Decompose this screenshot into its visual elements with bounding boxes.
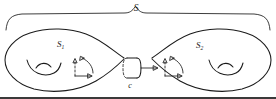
right-handle-lower-arc: [209, 60, 243, 75]
left-handle-mark: [27, 60, 61, 75]
neck-front-edge: [137, 58, 141, 78]
genus-two-outline: [5, 29, 271, 91]
label-surface-S-base: S: [134, 3, 139, 13]
label-region-S1-sub: 1: [62, 44, 65, 50]
label-region-S1: S1: [57, 39, 65, 50]
left-handle-upper-arc: [36, 63, 51, 68]
left-orientation-frame: [73, 56, 93, 78]
left-handle-lower-arc: [27, 60, 61, 75]
neck-normal-arrow: [141, 66, 158, 70]
label-curve-c-base: c: [128, 81, 132, 90]
right-orientation-frame: [163, 56, 183, 78]
neck-back-edge-dashed: [123, 58, 127, 78]
label-region-S2-sub: 2: [201, 45, 204, 51]
bottom-rule: [0, 97, 276, 99]
label-curve-c: c: [128, 81, 132, 90]
left-frame-rotation-arc: [82, 58, 93, 73]
label-surface-S: S: [134, 3, 139, 13]
label-region-S2: S2: [196, 40, 204, 51]
separating-neck: [123, 58, 141, 78]
outline-left-lobe: [5, 29, 124, 91]
right-frame-rotation-arc: [172, 58, 183, 73]
right-handle-mark: [209, 60, 243, 75]
brace-left-arm: [6, 7, 135, 30]
figure-canvas: S c: [0, 0, 276, 99]
brace-right-arm: [136, 7, 270, 30]
right-handle-upper-arc: [218, 63, 233, 68]
surface-decomposition-figure: S c: [0, 0, 276, 99]
